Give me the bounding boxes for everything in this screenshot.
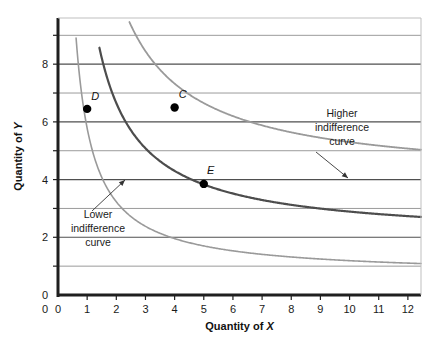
chart-background [0,0,444,338]
data-point-E [200,180,208,188]
lower-indifference-curve-annotation-line-3: curve [85,236,111,248]
xtick-label-11: 11 [373,303,384,315]
xtick-label-4: 4 [172,303,178,315]
xtick-label-3: 3 [142,303,148,315]
ytick-label-2: 2 [42,231,48,243]
chart-canvas: 0123456789101112024680 DCE Higherindiffe… [0,0,444,338]
ytick-label-4: 4 [42,174,48,186]
xtick-label-9: 9 [317,303,323,315]
point-label-C: C [179,88,187,100]
lower-indifference-curve-annotation-line-1: Lower [84,208,113,220]
xtick-label-6: 6 [230,303,236,315]
point-label-E: E [207,164,215,176]
higher-indifference-curve-annotation-line-3: curve [329,135,355,147]
xtick-label-12: 12 [402,303,414,315]
xtick-label-2: 2 [113,303,119,315]
xtick-label-5: 5 [201,303,207,315]
lower-indifference-curve-annotation-line-2: indifference [71,222,125,234]
xtick-label-0: 0 [55,303,61,315]
higher-indifference-curve-annotation-line-2: indifference [315,121,369,133]
data-point-D [83,105,91,113]
xtick-label-1: 1 [84,303,90,315]
y-axis-title: Quantity of Y [12,121,24,191]
higher-indifference-curve-annotation-line-1: Higher [327,107,358,119]
data-point-C [170,103,178,111]
x-axis-title: Quantity of X [205,320,274,332]
point-label-D: D [91,90,99,102]
xtick-label-10: 10 [343,303,355,315]
origin-label: 0 [42,303,48,315]
xtick-label-8: 8 [288,303,294,315]
ytick-label-8: 8 [42,58,48,70]
xtick-label-7: 7 [259,303,265,315]
indifference-curve-chart: 0123456789101112024680 DCE Higherindiffe… [0,0,444,338]
ytick-label-6: 6 [42,116,48,128]
ytick-label-0: 0 [42,289,48,301]
